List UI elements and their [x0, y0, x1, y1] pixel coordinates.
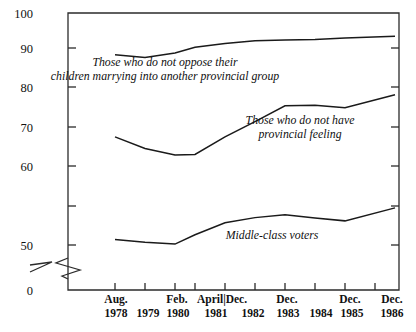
- y-tick-label-60: 60: [21, 160, 34, 174]
- x-tick-top-dec-1985: Dec.: [339, 293, 361, 305]
- x-tick-year-1986: 1986: [381, 307, 404, 319]
- x-tick-year-1978: 1978: [105, 307, 128, 319]
- y-tick-label-0: 0: [27, 284, 33, 298]
- y-tick-label-50: 50: [21, 239, 34, 253]
- y-tick-label-70: 70: [21, 121, 34, 135]
- annotation-no-oppose-line2: children marrying into another provincia…: [51, 69, 279, 83]
- annotation-no-oppose-line1: Those who do not oppose their: [92, 55, 238, 69]
- x-tick-top-dec-1986: Dec.: [381, 293, 403, 305]
- annotation-no-oppose: Those who do not oppose their children m…: [51, 55, 279, 83]
- line-chart: 100 90 80 70 60 50 0 Aug. Feb. April|Dec…: [0, 0, 416, 332]
- chart-svg: 100 90 80 70 60 50 0 Aug. Feb. April|Dec…: [0, 0, 416, 332]
- y-tick-label-90: 90: [21, 42, 34, 56]
- y-tick-label-100: 100: [14, 7, 33, 21]
- x-axis-labels-bottom: 1978 1979 1980 1981 1982 1983 1984 1985 …: [105, 307, 404, 319]
- x-tick-top-aug: Aug.: [104, 293, 127, 306]
- x-tick-year-1985: 1985: [341, 307, 364, 319]
- x-tick-year-1982: 1982: [242, 307, 265, 319]
- y-axis-labels: 100 90 80 70 60 50 0: [14, 7, 33, 298]
- x-tick-top-aprdec: April|Dec.: [197, 293, 247, 306]
- annotation-no-provincial-feeling-line2: provincial feeling: [257, 127, 341, 141]
- x-tick-year-1981: 1981: [205, 307, 228, 319]
- x-axis-labels-top: Aug. Feb. April|Dec. Dec. Dec. Dec.: [104, 293, 402, 306]
- annotation-middle-class-line1: Middle-class voters: [225, 228, 319, 242]
- x-tick-top-feb: Feb.: [166, 293, 188, 305]
- annotation-middle-class: Middle-class voters: [225, 228, 319, 242]
- x-tick-top-dec-1983: Dec.: [276, 293, 298, 305]
- x-tick-year-1979: 1979: [137, 307, 160, 319]
- x-tick-year-1984: 1984: [310, 307, 333, 319]
- annotation-no-provincial-feeling: Those who do not have provincial feeling: [246, 113, 355, 141]
- x-tick-year-1983: 1983: [277, 307, 300, 319]
- right-axis-ticks: [391, 48, 399, 245]
- annotation-no-provincial-feeling-line1: Those who do not have: [246, 113, 355, 127]
- y-tick-label-80: 80: [21, 81, 34, 95]
- x-tick-year-1980: 1980: [167, 307, 190, 319]
- x-axis-ticks: [115, 283, 375, 290]
- y-axis-break-mark: [30, 258, 80, 279]
